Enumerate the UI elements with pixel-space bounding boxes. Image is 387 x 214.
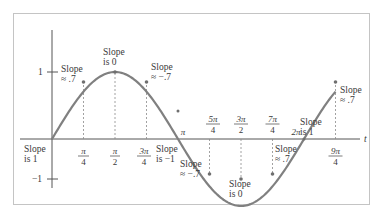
- x-tick-pi: π: [181, 127, 186, 137]
- x-tick-3pi-2: 3π 2: [234, 114, 248, 135]
- svg-text:2: 2: [239, 125, 244, 135]
- svg-text:Slope: Slope: [275, 144, 297, 154]
- x-tick-7pi-4: 7π 4: [266, 114, 280, 135]
- svg-text:is 1: is 1: [300, 127, 314, 137]
- annotation-slope-1-at-2pi: Slope is 1: [300, 117, 322, 137]
- annotation-slope-0.7-at-pi-4: Slope ≈ .7: [61, 64, 83, 84]
- annotation-slope-1-at-0: Slope is 1: [24, 144, 46, 164]
- annotation-slope-neg0.7-at-3pi-4: Slope ≈ −.7: [151, 62, 173, 82]
- sine-slope-diagram: 1 −1 t π 4 π 2: [0, 0, 387, 214]
- svg-text:4: 4: [333, 157, 338, 167]
- svg-text:≈ .7: ≈ .7: [275, 154, 290, 164]
- x-tick-3pi-4: 3π 4: [137, 146, 151, 167]
- svg-text:2: 2: [113, 157, 118, 167]
- svg-text:≈ −.7: ≈ −.7: [180, 169, 200, 179]
- svg-text:is 0: is 0: [103, 57, 117, 67]
- svg-text:7π: 7π: [268, 114, 278, 124]
- svg-text:is 0: is 0: [229, 189, 243, 199]
- svg-text:Slope: Slope: [300, 117, 322, 127]
- svg-text:Slope: Slope: [180, 159, 202, 169]
- svg-text:Slope: Slope: [61, 64, 83, 74]
- svg-text:4: 4: [211, 125, 216, 135]
- annotation-slope-0.7-at-9pi-4: Slope ≈ .7: [340, 85, 362, 105]
- svg-text:Slope: Slope: [156, 144, 178, 154]
- guide-lines: [84, 72, 336, 179]
- x-tick-pi-4: π 4: [78, 146, 89, 167]
- svg-text:Slope: Slope: [340, 85, 362, 95]
- y-tick-label-1: 1: [38, 67, 43, 77]
- x-tick-9pi-4: 9π 4: [329, 146, 343, 167]
- svg-text:Slope: Slope: [24, 144, 46, 154]
- annotation-slope-0-at-3pi-2: Slope is 0: [229, 179, 251, 199]
- annotation-slope-0.7-at-7pi-4: Slope ≈ .7: [275, 144, 297, 164]
- svg-text:3π: 3π: [235, 114, 246, 124]
- annotation-slope-neg0.7-at-5pi-4: Slope ≈ −.7: [180, 159, 202, 179]
- slope-annotations: Slope is 1 Slope ≈ .7 Slope is 0 Slope ≈…: [24, 47, 362, 199]
- svg-text:9π: 9π: [331, 146, 341, 156]
- x-axis-label: t: [364, 134, 367, 144]
- svg-text:is −1: is −1: [156, 154, 175, 164]
- svg-text:3π: 3π: [138, 146, 149, 156]
- svg-text:π: π: [81, 146, 86, 156]
- svg-text:≈ −.7: ≈ −.7: [151, 72, 171, 82]
- svg-text:≈ .7: ≈ .7: [340, 95, 355, 105]
- svg-text:≈ .7: ≈ .7: [61, 74, 76, 84]
- svg-text:4: 4: [270, 125, 275, 135]
- annotation-slope-neg1-at-pi: Slope is −1: [156, 144, 178, 164]
- annotation-slope-0-at-pi-2: Slope is 0: [103, 47, 125, 67]
- svg-text:4: 4: [142, 157, 147, 167]
- svg-text:5π: 5π: [208, 114, 218, 124]
- svg-text:Slope: Slope: [103, 47, 125, 57]
- svg-text:Slope: Slope: [151, 62, 173, 72]
- svg-text:Slope: Slope: [229, 179, 251, 189]
- svg-text:4: 4: [81, 157, 86, 167]
- y-tick-label-minus-1: −1: [32, 174, 42, 184]
- x-tick-5pi-4: 5π 4: [206, 114, 220, 135]
- svg-text:π: π: [113, 146, 118, 156]
- svg-text:is 1: is 1: [24, 154, 38, 164]
- x-tick-pi-2: π 2: [110, 146, 120, 167]
